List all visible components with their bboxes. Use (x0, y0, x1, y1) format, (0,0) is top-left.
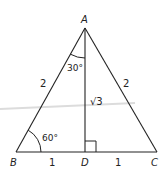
side-label-ad: √3 (90, 96, 103, 107)
side-label-ac: 2 (123, 78, 129, 89)
vertex-label-a: A (80, 14, 88, 25)
side-ac (85, 28, 157, 152)
vertex-label-c: C (151, 157, 158, 168)
side-label-dc: 1 (115, 157, 121, 168)
angle-arc-b (28, 130, 41, 152)
angle-label-a: 30° (67, 63, 83, 73)
angle-label-b: 60° (42, 133, 58, 143)
side-label-ab: 2 (40, 78, 46, 89)
vertex-label-d: D (81, 157, 89, 168)
side-label-bd: 1 (49, 157, 55, 168)
right-angle-marker (85, 141, 96, 152)
scan-streak (0, 103, 135, 109)
vertex-label-b: B (10, 157, 17, 168)
angle-arc-a (70, 54, 85, 58)
triangle-diagram: A B D C 2 2 1 1 √3 30° 60° (0, 0, 166, 177)
